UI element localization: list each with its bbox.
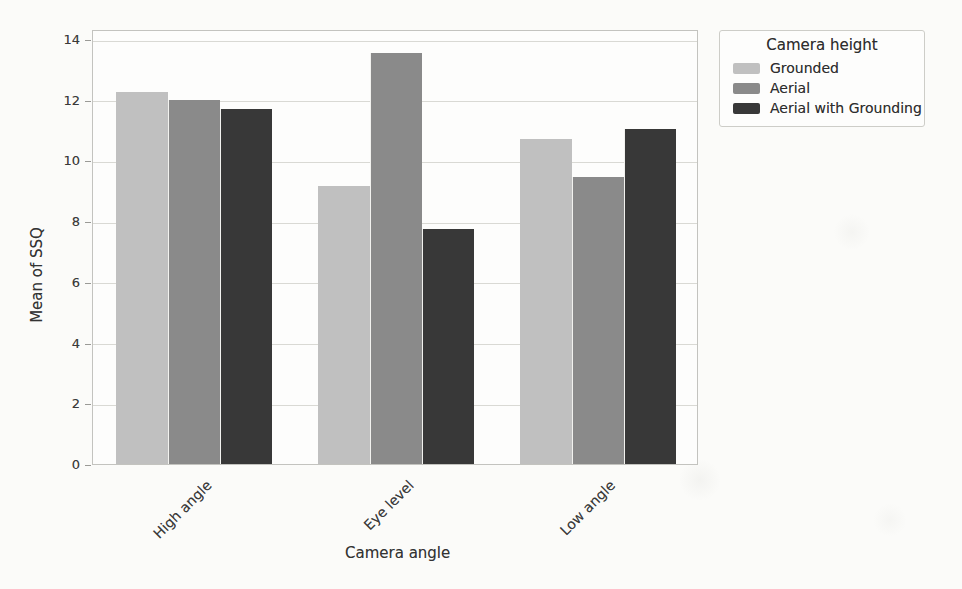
bar-high-angle-aerial — [168, 100, 220, 464]
figure-canvas: Mean of SSQ Camera angle Camera height G… — [0, 0, 962, 589]
legend-items: GroundedAerialAerial with Grounding — [728, 58, 916, 118]
legend-title: Camera height — [728, 36, 916, 54]
bar-high-angle-grounded — [116, 92, 168, 464]
legend-item-label: Aerial — [770, 80, 810, 96]
legend-swatch-icon — [733, 63, 760, 74]
y-tick-mark-0 — [85, 465, 91, 466]
y-tick-mark-14 — [85, 40, 91, 41]
x-tick-label-eye-level: Eye level — [360, 477, 416, 533]
gridline-y-14 — [93, 41, 697, 42]
y-tick-mark-12 — [85, 101, 91, 102]
legend-item-aerial-with-grounding: Aerial with Grounding — [728, 98, 916, 118]
x-tick-label-low-angle: Low angle — [557, 477, 618, 538]
legend-swatch-icon — [733, 103, 760, 114]
y-tick-mark-4 — [85, 344, 91, 345]
legend-item-label: Aerial with Grounding — [770, 100, 922, 116]
y-tick-label-4: 4 — [10, 336, 80, 352]
y-tick-label-14: 14 — [10, 32, 80, 48]
bar-eye-level-aerial — [370, 53, 422, 464]
legend-swatch-icon — [733, 83, 760, 94]
x-tick-label-high-angle: High angle — [150, 477, 215, 542]
y-tick-label-6: 6 — [10, 275, 80, 291]
y-tick-mark-8 — [85, 222, 91, 223]
y-tick-mark-2 — [85, 404, 91, 405]
y-tick-label-0: 0 — [10, 457, 80, 473]
y-tick-mark-10 — [85, 161, 91, 162]
legend-item-aerial: Aerial — [728, 78, 916, 98]
bar-low-angle-grounded — [520, 139, 572, 464]
bar-low-angle-aerial-with-grounding — [624, 129, 676, 464]
bar-eye-level-aerial-with-grounding — [422, 229, 474, 464]
y-tick-label-8: 8 — [10, 214, 80, 230]
legend-item-grounded: Grounded — [728, 58, 916, 78]
x-axis-title: Camera angle — [345, 544, 655, 562]
y-tick-label-2: 2 — [10, 396, 80, 412]
y-tick-label-12: 12 — [10, 93, 80, 109]
y-tick-mark-6 — [85, 283, 91, 284]
bar-low-angle-aerial — [572, 177, 624, 464]
bar-eye-level-grounded — [318, 186, 370, 464]
legend-item-label: Grounded — [770, 60, 839, 76]
y-tick-label-10: 10 — [10, 153, 80, 169]
bar-high-angle-aerial-with-grounding — [220, 109, 272, 464]
legend: Camera height GroundedAerialAerial with … — [719, 30, 925, 127]
plot-area — [92, 30, 698, 465]
